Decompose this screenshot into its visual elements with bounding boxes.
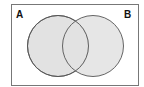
venn-diagram: A B: [0, 0, 144, 87]
set-b-label: B: [124, 9, 131, 20]
set-a-label: A: [16, 9, 23, 20]
set-b-circle: [63, 16, 124, 77]
